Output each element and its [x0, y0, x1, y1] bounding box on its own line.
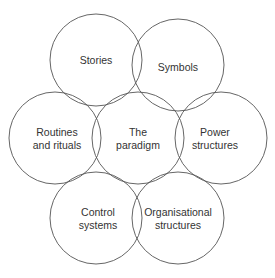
cultural-web-diagram: Stories Symbols Routines and rituals The… — [0, 0, 275, 278]
label-organisational-1: Organisational — [144, 206, 212, 218]
label-routines-1: Routines — [36, 126, 77, 138]
label-symbols: Symbols — [158, 61, 198, 73]
label-stories: Stories — [80, 54, 113, 66]
circle-organisational: Organisational structures — [132, 172, 224, 264]
circle-routines: Routines and rituals — [9, 92, 101, 184]
circle-control: Control systems — [50, 172, 142, 264]
label-control-1: Control — [81, 206, 115, 218]
label-paradigm-2: paradigm — [116, 139, 160, 151]
label-paradigm-1: The — [129, 126, 147, 138]
circle-stories: Stories — [50, 14, 142, 106]
label-organisational-2: structures — [155, 219, 201, 231]
label-power-2: structures — [192, 139, 238, 151]
circle-symbols: Symbols — [132, 19, 224, 111]
label-routines-2: and rituals — [33, 139, 81, 151]
label-power-1: Power — [200, 126, 230, 138]
label-control-2: systems — [79, 219, 118, 231]
circle-paradigm: The paradigm — [92, 92, 184, 184]
circle-power: Power structures — [175, 92, 267, 184]
